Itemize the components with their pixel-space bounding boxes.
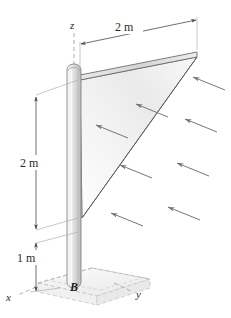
axis-z-label: z — [69, 19, 75, 31]
mechanics-diagram-svg: z y x B 2 m — [0, 0, 231, 318]
axis-x-label: x — [5, 291, 11, 303]
figure-container: z y x B 2 m — [0, 0, 231, 318]
dim-2m-label: 2 m — [20, 156, 39, 170]
axis-z: z — [69, 19, 75, 66]
pole — [67, 64, 81, 288]
wind-arrow-7 — [168, 207, 200, 220]
point-b-label: B — [69, 280, 78, 294]
wind-arrow-5 — [120, 165, 152, 178]
wind-arrow-2 — [185, 119, 217, 132]
base-plate — [38, 268, 150, 305]
dim-top-label: 2 m — [115, 20, 134, 34]
pole-body — [67, 64, 81, 288]
dim-1m-label: 1 m — [17, 251, 36, 265]
wind-arrow-4 — [177, 163, 209, 176]
axis-y-label: y — [135, 288, 141, 300]
axis-x: x — [5, 287, 36, 303]
axis-x-line — [18, 287, 36, 295]
wind-arrow-8 — [111, 213, 143, 226]
wind-arrow-1 — [193, 77, 225, 90]
sail-plate — [80, 52, 197, 218]
